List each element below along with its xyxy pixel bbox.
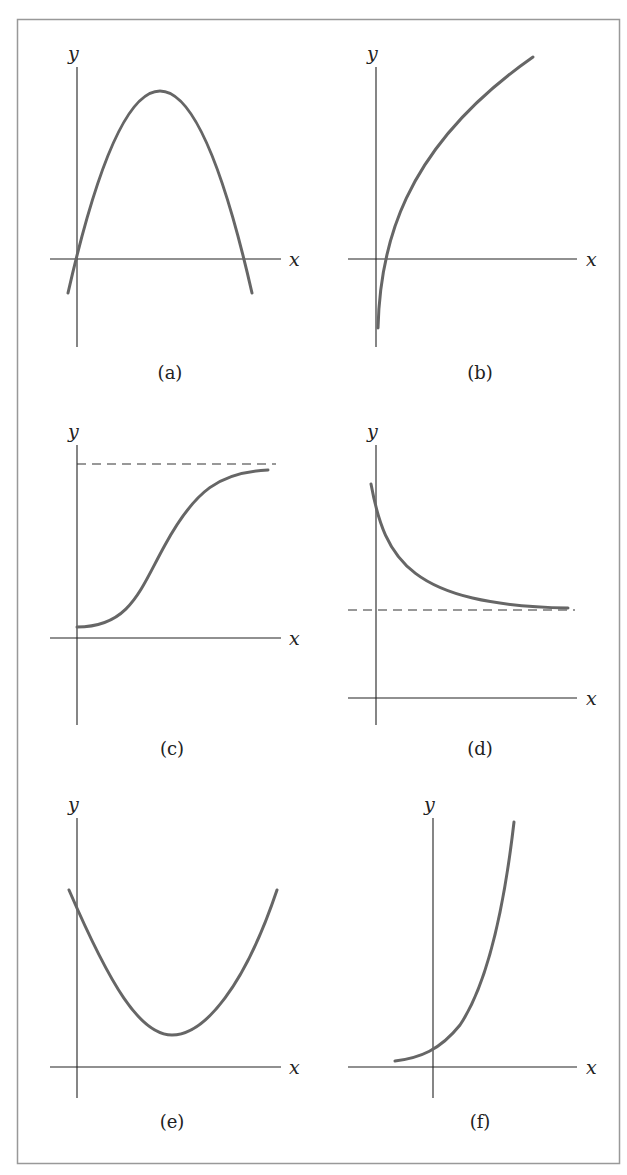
panel-e: y x (e): [50, 793, 300, 1132]
y-axis-label: y: [366, 420, 378, 442]
x-axis-label: x: [586, 1056, 597, 1078]
panel-b: y x (b): [348, 42, 597, 383]
figure-canvas: y x (a) y x (b) y x (c) y x (d) y x: [0, 0, 627, 1175]
caption-d: (d): [467, 738, 493, 759]
x-axis-label: x: [289, 627, 300, 649]
y-axis-label: y: [423, 793, 435, 815]
y-axis-label: y: [366, 42, 378, 64]
x-axis-label: x: [586, 687, 597, 709]
panel-f: y x (f): [348, 793, 597, 1132]
parabola-curve: [68, 91, 252, 293]
x-axis-label: x: [289, 248, 300, 270]
x-axis-label: x: [586, 248, 597, 270]
y-axis-label: y: [67, 420, 79, 442]
caption-b: (b): [467, 362, 493, 383]
caption-c: (c): [160, 738, 184, 759]
caption-e: (e): [160, 1111, 185, 1132]
panel-a: y x (a): [50, 42, 300, 383]
x-axis-label: x: [289, 1056, 300, 1078]
figure-frame: [18, 20, 620, 1164]
panel-c: y x (c): [50, 420, 300, 759]
y-axis-label: y: [67, 793, 79, 815]
exponential-curve: [395, 822, 514, 1061]
panel-d: y x (d): [348, 420, 597, 759]
y-axis-label: y: [67, 42, 79, 64]
caption-f: (f): [470, 1111, 491, 1132]
caption-a: (a): [158, 362, 183, 383]
parabola-curve: [69, 890, 277, 1035]
sigmoid-curve: [77, 470, 268, 627]
decay-curve: [371, 484, 568, 608]
log-curve: [378, 57, 533, 328]
